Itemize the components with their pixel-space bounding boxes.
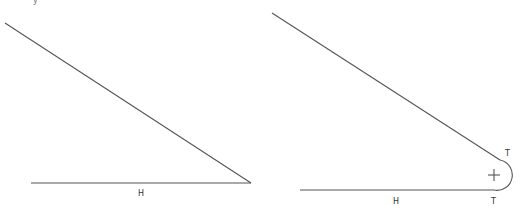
right-h-label: H — [393, 197, 399, 206]
right-figure: T T H — [272, 13, 512, 206]
tangent-label-top: T — [504, 149, 510, 158]
tangent-label-bottom: T — [490, 197, 496, 206]
left-diagonal-line — [5, 23, 251, 183]
clipped-text-fragment: y — [33, 0, 38, 5]
left-figure: H — [5, 23, 251, 198]
left-h-label: H — [138, 189, 144, 198]
diagram-canvas: y H T T H — [0, 0, 523, 216]
arc-center-cross-icon — [488, 169, 500, 181]
right-diagonal-line — [272, 13, 500, 160]
